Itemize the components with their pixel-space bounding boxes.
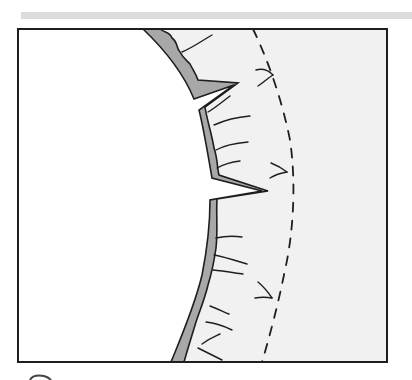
- partial-arc: [30, 376, 51, 380]
- cross-section-diagram: [0, 0, 412, 380]
- header-band: [21, 12, 412, 19]
- diagram-frame: [18, 29, 387, 362]
